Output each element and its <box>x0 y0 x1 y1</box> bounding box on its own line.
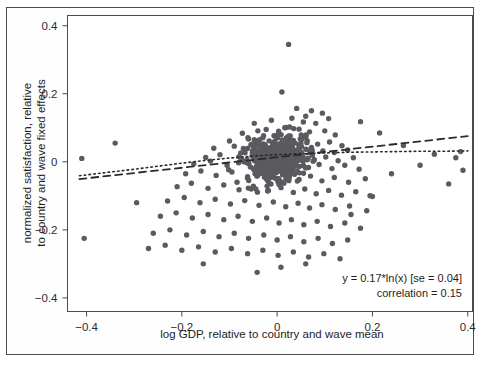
data-point <box>151 231 156 236</box>
data-point <box>323 154 328 159</box>
data-point <box>205 186 210 191</box>
data-point <box>446 181 451 186</box>
data-point <box>358 119 363 124</box>
data-point <box>221 182 226 187</box>
data-point <box>165 198 170 203</box>
data-point <box>310 158 315 163</box>
data-point <box>285 171 290 176</box>
data-point <box>347 203 352 208</box>
data-point <box>327 139 332 144</box>
data-point <box>251 167 256 172</box>
y-tick-label: 0.4 <box>42 20 59 32</box>
data-point <box>134 200 139 205</box>
data-point <box>229 246 234 251</box>
data-point <box>245 135 250 140</box>
data-point <box>358 225 363 230</box>
data-point <box>319 202 324 207</box>
data-point <box>309 108 314 113</box>
data-point <box>315 236 320 241</box>
data-point <box>339 192 344 197</box>
data-point <box>158 214 163 219</box>
data-point <box>280 137 285 142</box>
data-point <box>216 234 221 239</box>
y-axis-label-line2: to country and wave fixed effects <box>35 79 47 247</box>
data-point <box>330 241 335 246</box>
data-point <box>201 229 206 234</box>
data-point <box>261 133 266 138</box>
data-point <box>328 224 333 229</box>
data-point <box>337 256 342 261</box>
data-point <box>253 186 258 191</box>
data-point <box>453 155 458 160</box>
data-point <box>274 159 279 164</box>
data-point <box>179 248 184 253</box>
data-point <box>332 175 337 180</box>
data-point <box>242 198 247 203</box>
data-point <box>296 146 301 151</box>
data-point <box>363 176 368 181</box>
data-point <box>263 127 268 132</box>
data-point <box>189 181 194 186</box>
data-point <box>286 42 291 47</box>
data-point <box>301 222 306 227</box>
y-tick-label: 0 <box>51 156 57 168</box>
data-point <box>314 219 319 224</box>
x-tick-label: −0.4 <box>75 321 98 333</box>
data-point <box>315 141 320 146</box>
y-axis-label-line1: normalized satisfaction, relative <box>21 83 33 243</box>
data-point <box>301 119 306 124</box>
data-point <box>326 188 331 193</box>
data-point <box>302 186 307 191</box>
data-point <box>276 164 281 169</box>
data-point <box>242 150 247 155</box>
data-point <box>81 236 86 241</box>
data-point <box>262 145 267 150</box>
data-point <box>333 207 338 212</box>
data-point <box>291 249 296 254</box>
correlation-annotation: correlation = 0.15 <box>377 287 462 299</box>
data-point <box>275 133 280 138</box>
data-point <box>301 163 306 168</box>
data-point <box>246 178 251 183</box>
data-point <box>299 132 304 137</box>
data-point <box>353 189 358 194</box>
y-tick-label: −0.4 <box>35 292 58 304</box>
data-point <box>252 121 257 126</box>
data-point <box>183 171 188 176</box>
data-point <box>307 205 312 210</box>
data-point <box>211 145 216 150</box>
data-point <box>256 141 261 146</box>
data-point <box>213 173 218 178</box>
data-point <box>282 164 287 169</box>
data-point <box>269 118 274 123</box>
figure-container: −0.4−0.200.20.4 −0.4−0.200.20.4 log GDP,… <box>0 0 480 365</box>
data-point <box>346 180 351 185</box>
data-point <box>333 132 338 137</box>
data-point <box>245 251 250 256</box>
data-point <box>190 215 195 220</box>
data-point <box>198 168 203 173</box>
data-point <box>339 143 344 148</box>
data-point <box>283 204 288 209</box>
data-point <box>174 184 179 189</box>
data-point <box>377 130 382 135</box>
data-point <box>232 143 237 148</box>
data-point <box>288 234 293 239</box>
data-point <box>276 176 281 181</box>
data-point <box>356 167 361 172</box>
fit-equation-annotation: y = 0.17*ln(x) [se = 0.04] <box>342 272 462 284</box>
data-point <box>303 261 308 266</box>
data-point <box>345 237 350 242</box>
data-point <box>213 249 218 254</box>
data-point <box>275 253 280 258</box>
data-point <box>167 227 172 232</box>
data-point <box>79 156 84 161</box>
data-point <box>294 169 299 174</box>
data-point <box>226 167 231 172</box>
data-point <box>221 217 226 222</box>
data-point <box>320 110 325 115</box>
data-point <box>184 232 189 237</box>
x-axis-label: log GDP, relative to country and wave me… <box>160 328 384 340</box>
data-point <box>306 254 311 259</box>
data-point <box>264 215 269 220</box>
